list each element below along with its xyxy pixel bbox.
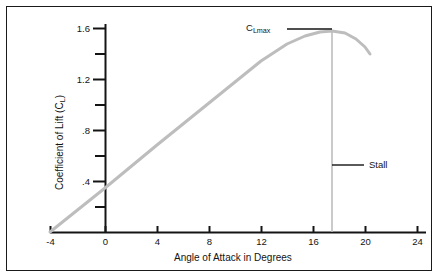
y-tick-label-1-2: 1.2 [60, 74, 90, 85]
cl-max-annotation-main: C [246, 22, 253, 33]
cl-max-annotation: CLmax [246, 22, 270, 33]
x-tick-label-0: 0 [91, 236, 120, 247]
x-tick-label-12: 12 [247, 236, 276, 247]
x-tick-label-minus-4: -4 [36, 236, 65, 247]
y-axis-title-subscript: L [58, 98, 67, 102]
x-tick-label-8: 8 [195, 236, 224, 247]
cl-max-annotation-subscript: Lmax [253, 26, 271, 35]
y-axis-title: Coefficient of Lift (CL) [54, 95, 65, 190]
x-axis-title: Angle of Attack in Degrees [174, 252, 292, 263]
y-axis-title-main: Coefficient of Lift (C [54, 102, 65, 190]
x-tick-label-4: 4 [143, 236, 172, 247]
x-tick-label-20: 20 [351, 236, 380, 247]
x-tick-label-16: 16 [299, 236, 328, 247]
x-tick-label-24: 24 [403, 236, 432, 247]
chart-figure: 1.6 1.2 .8 .4 -4 0 4 8 12 16 20 24 Angle… [0, 0, 440, 278]
stall-annotation: Stall [369, 159, 387, 170]
y-tick-label-1-6: 1.6 [60, 23, 90, 34]
